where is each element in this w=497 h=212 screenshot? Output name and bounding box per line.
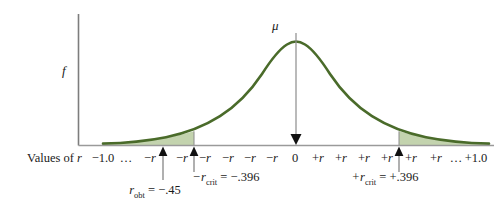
r-obt-annotation: robt = −.45 [129, 183, 181, 200]
x-tick-label: 0 [292, 151, 298, 166]
x-tick-label: +r [430, 151, 442, 166]
r-crit-neg-arrow-head [190, 147, 199, 157]
x-tick-label: … [120, 151, 133, 166]
x-tick-label: −r [266, 151, 278, 166]
r-obt-arrow-head [159, 147, 168, 157]
mean-symbol-label: μ [272, 18, 279, 34]
x-tick-label: +r [405, 151, 417, 166]
mean-arrow-head [291, 134, 302, 145]
x-tick-label: −r [144, 151, 156, 166]
r-crit-positive-annotation: +rcrit = +.396 [352, 170, 419, 187]
r-crit-pos-arrow-head [395, 147, 404, 157]
x-tick-label: +1.0 [465, 151, 488, 166]
x-axis-caption: Values of r [27, 151, 82, 166]
sampling-distribution-figure: f μ Values of r −1.0…−r−r−r−r−r−r0+r+r+r… [0, 0, 497, 212]
x-tick-label: +r [381, 151, 393, 166]
x-tick-label: −r [176, 151, 188, 166]
x-tick-label: +r [358, 151, 370, 166]
x-tick-label: −1.0 [92, 151, 115, 166]
x-tick-label: +r [335, 151, 347, 166]
r-crit-negative-annotation: −rcrit = −.396 [193, 170, 260, 187]
x-tick-label: … [450, 151, 463, 166]
x-tick-label: +r [312, 151, 324, 166]
x-tick-label: −r [244, 151, 256, 166]
x-tick-label: −r [222, 151, 234, 166]
x-tick-label: −r [199, 151, 211, 166]
y-axis-label: f [62, 63, 66, 79]
